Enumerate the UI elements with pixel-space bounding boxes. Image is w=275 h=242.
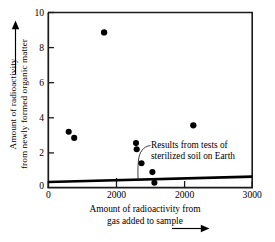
x-tick-label-0: 0 xyxy=(32,190,66,200)
data-point xyxy=(71,135,77,141)
x-tick-label-1: 2000 xyxy=(100,190,134,200)
y-tick-label-10: 10 xyxy=(24,8,44,18)
y-tick-label-4: 4 xyxy=(24,113,44,123)
data-point xyxy=(101,29,107,35)
arrow-up-icon xyxy=(12,21,19,75)
scatter-plot-figure: 10 8 6 4 2 0 0 2000 2000 3000 Amount of … xyxy=(0,0,275,242)
data-point xyxy=(190,122,196,128)
sterilized-soil-trendline xyxy=(48,177,252,182)
x-tick-label-3: 3000 xyxy=(235,190,269,200)
data-point xyxy=(149,169,155,175)
y-tick-label-6: 6 xyxy=(24,78,44,88)
data-points xyxy=(66,29,197,186)
y-tick-label-2: 2 xyxy=(24,148,44,158)
data-point xyxy=(134,146,140,152)
y-tick-label-8: 8 xyxy=(24,43,44,53)
arrow-right-icon xyxy=(172,225,210,232)
data-point xyxy=(138,160,144,166)
data-point xyxy=(66,129,72,135)
x-tick-label-2: 2000 xyxy=(168,190,202,200)
plot-frame xyxy=(48,13,254,189)
data-point xyxy=(151,180,157,186)
data-point xyxy=(133,140,139,146)
